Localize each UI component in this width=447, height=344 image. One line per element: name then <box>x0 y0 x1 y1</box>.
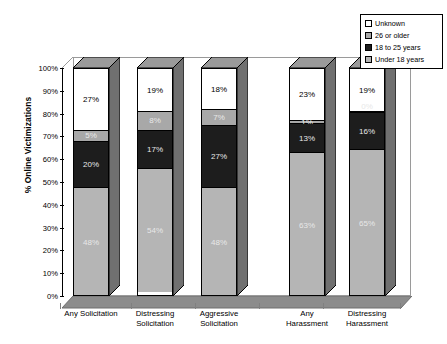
chart-floor <box>62 296 412 309</box>
bar-2[interactable]: 18%7%27%48% <box>201 68 237 296</box>
bar-side-face <box>109 57 120 296</box>
bar-segment-label: 17% <box>147 145 163 154</box>
x-axis-label-line: Distressing <box>329 309 405 319</box>
y-tick-label: 20% <box>24 246 58 255</box>
bar-segment-label: 48% <box>83 238 99 247</box>
legend-item-0[interactable]: Unknown <box>365 18 439 29</box>
legend-swatch-icon <box>365 32 372 39</box>
bar-segment-label: 65% <box>359 219 375 228</box>
bar-front-face: 27%5%20%48% <box>73 68 109 296</box>
bar-segment: 54% <box>138 169 172 292</box>
bar-side-face <box>325 57 336 296</box>
bar-segment: 63% <box>290 153 324 296</box>
bar-1[interactable]: 19%8%17%54% <box>137 68 173 296</box>
bar-0[interactable]: 27%5%20%48% <box>73 68 109 296</box>
bar-front-face: 23%1%13%63% <box>289 68 325 296</box>
bar-top-face <box>201 57 248 68</box>
bar-segment: 8% <box>138 112 172 130</box>
bar-3[interactable]: 23%1%13%63% <box>289 68 325 296</box>
bar-segment: 18% <box>202 69 236 110</box>
bar-segment: 19% <box>350 69 384 112</box>
legend-item-label: 18 to 25 years <box>375 44 421 52</box>
bar-top-face <box>73 57 120 68</box>
legend-swatch-icon <box>365 44 372 51</box>
bar-segment: 65% <box>350 150 384 296</box>
y-axis-title: % Online Victimizations <box>23 55 33 235</box>
bar-segment-label: 23% <box>299 90 315 99</box>
bar-segment: 13% <box>290 124 324 154</box>
bar-segment-label: 54% <box>147 226 163 235</box>
bar-segment-label: 20% <box>83 160 99 169</box>
bar-front-face: 19%0%16%65% <box>349 68 385 296</box>
bar-segment: 27% <box>202 126 236 188</box>
legend-item-1[interactable]: 26 or older <box>365 30 439 41</box>
bar-segment-label: 19% <box>147 86 163 95</box>
bar-4[interactable]: 19%0%16%65% <box>349 68 385 296</box>
bar-segment-label: 16% <box>359 127 375 136</box>
bar-segment: 48% <box>202 188 236 296</box>
y-tick-label: 10% <box>24 269 58 278</box>
x-axis-label-2: AggressiveSolicitation <box>181 309 257 328</box>
bar-segment: 17% <box>138 131 172 170</box>
bar-segment-label: 19% <box>359 86 375 95</box>
bar-front-face: 19%8%17%54% <box>137 68 173 296</box>
bar-segment: 48% <box>74 188 108 296</box>
bar-segment-label: 27% <box>83 95 99 104</box>
bar-top-face <box>289 57 336 68</box>
bar-side-face <box>237 57 248 296</box>
bar-side-face <box>385 57 396 296</box>
bar-side-face <box>173 57 184 296</box>
legend-item-label: 26 or older <box>375 32 409 40</box>
bar-segment-label: 27% <box>211 152 227 161</box>
y-tick-label: 0% <box>24 292 58 301</box>
bar-segment-label: 5% <box>85 131 97 140</box>
legend-item-2[interactable]: 18 to 25 years <box>365 42 439 53</box>
legend-item-3[interactable]: Under 18 years <box>365 54 439 65</box>
bar-segment: 7% <box>202 110 236 126</box>
bar-top-face <box>137 57 184 68</box>
bar-segment-label: 8% <box>149 116 161 125</box>
bar-segment: 16% <box>350 113 384 149</box>
bar-segment: 5% <box>74 131 108 142</box>
bar-segment: 20% <box>74 142 108 188</box>
chart-legend[interactable]: Unknown26 or older18 to 25 yearsUnder 18… <box>360 14 443 69</box>
bar-segment-label: 63% <box>299 221 315 230</box>
x-axis-label-line: Solicitation <box>181 319 257 329</box>
legend-item-label: Under 18 years <box>375 56 424 64</box>
bar-segment-label: 48% <box>211 238 227 247</box>
x-axis-label-line: Harassment <box>329 319 405 329</box>
x-axis-separator <box>259 303 260 309</box>
legend-item-label: Unknown <box>375 20 405 28</box>
legend-swatch-icon <box>365 20 372 27</box>
bar-segment: 27% <box>74 69 108 131</box>
x-axis-label-4: DistressingHarassment <box>329 309 405 328</box>
legend-swatch-icon <box>365 56 372 63</box>
bar-segment: 23% <box>290 69 324 121</box>
y-axis-line <box>62 68 63 297</box>
bar-segment-label: 18% <box>211 85 227 94</box>
bar-segment-label: 13% <box>299 134 315 143</box>
bar-segment-label: 7% <box>213 113 225 122</box>
bar-front-face: 18%7%27%48% <box>201 68 237 296</box>
bar-segment: 19% <box>138 69 172 112</box>
x-axis-label-line: Aggressive <box>181 309 257 319</box>
